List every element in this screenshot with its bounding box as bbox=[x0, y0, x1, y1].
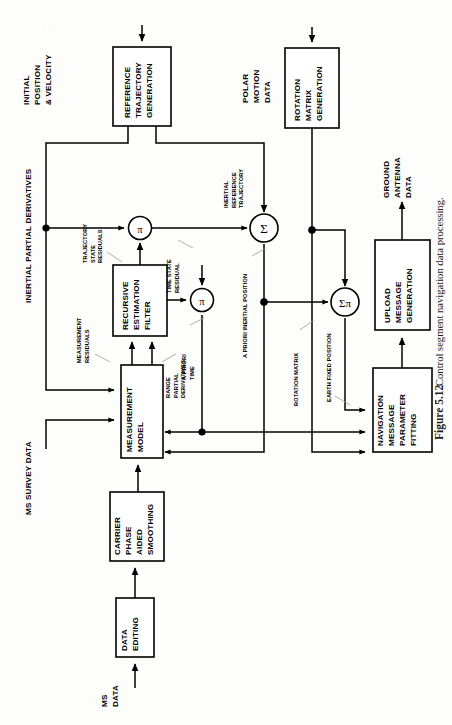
label-ref-line3: FILTER bbox=[143, 301, 152, 330]
label-ground-antenna-data: GROUND ANTENNA DATA bbox=[382, 157, 413, 198]
label-msdata-line1: MS bbox=[100, 694, 109, 707]
label-ipv-line1: INITIAL bbox=[22, 75, 31, 105]
operator-sigma-inertial-glyph: Σ bbox=[260, 221, 268, 236]
leader-trajectory-state-residuals bbox=[107, 252, 122, 262]
label-polar-motion-data: POLAR MOTION DATA bbox=[241, 69, 272, 103]
figure-number: Figure 5.12 bbox=[433, 384, 446, 440]
label-inertial-partial-derivatives: INERTIAL PARTIAL DERIVATIVES bbox=[24, 168, 33, 303]
scan-artifact-left: · · · bbox=[42, 23, 56, 29]
label-rmg-line2: MATRIX bbox=[304, 89, 313, 121]
label-tstr-line1: TIME STATE bbox=[166, 259, 172, 293]
label-irt-line2: REFERENCE bbox=[231, 172, 237, 208]
label-msd-text: MS SURVEY DATA bbox=[24, 441, 33, 515]
label-nmpf-line3: PARAMETER bbox=[398, 394, 407, 446]
label-pmd-line3: DATA bbox=[263, 81, 272, 103]
label-ipv-line2: POSITION bbox=[33, 65, 42, 105]
label-apip-text: A PRIORI INERTIAL POSITION bbox=[242, 274, 248, 358]
label-apt-line2: TIME bbox=[189, 366, 195, 380]
label-msdata-line2: DATA bbox=[111, 685, 120, 707]
label-rtg-line2: TRAJECTORY bbox=[134, 62, 143, 118]
label-tstr-line2: RESIDUAL bbox=[174, 263, 180, 293]
leader-range-partial-derivatives bbox=[162, 354, 176, 362]
operator-sigma-pi-glyph: Σπ bbox=[339, 297, 351, 309]
label-initial-position-velocity: INITIAL POSITION & VELOCITY bbox=[22, 54, 53, 105]
figure-caption-text: Control segment navigation data processi… bbox=[434, 197, 445, 386]
operator-pi-trajectory-glyph: π bbox=[137, 224, 143, 235]
label-cpas-line2: PHASE bbox=[124, 526, 133, 555]
wire-reference-trajectory-to-sigma bbox=[156, 126, 264, 212]
label-tsr-line1: TRAJECTORY bbox=[82, 224, 88, 263]
label-ms-survey-data: MS SURVEY DATA bbox=[24, 441, 33, 515]
label-ipd-text: INERTIAL PARTIAL DERIVATIVES bbox=[24, 168, 33, 303]
label-mm-line1: MEASUREMENT bbox=[125, 387, 134, 452]
label-gad-line3: DATA bbox=[404, 176, 413, 198]
label-pmd-line1: POLAR bbox=[241, 74, 250, 103]
label-rpd-line1: RANGE bbox=[165, 377, 171, 398]
label-ref-line1: RECURSIVE bbox=[121, 281, 130, 330]
label-gad-line1: GROUND bbox=[382, 161, 391, 198]
wire-rotation-matrix-to-sigma-pi bbox=[312, 230, 345, 286]
label-nmpf-line2: MESSAGE bbox=[387, 404, 396, 446]
label-de-line1: DATA bbox=[120, 629, 129, 651]
wire-rotation-matrix-to-nav-message-fitting bbox=[312, 230, 365, 452]
label-mm-line2: MODEL bbox=[136, 422, 145, 452]
label-a-priori-inertial-position: A PRIORI INERTIAL POSITION bbox=[242, 274, 248, 358]
leader-measurement-residuals bbox=[95, 354, 110, 362]
label-rmg-line3: GENERATION bbox=[315, 66, 324, 121]
label-tsr-line2: STATE bbox=[90, 245, 96, 263]
label-umg-line2: MESSAGE bbox=[394, 281, 403, 323]
label-cpas-line3: AIDED bbox=[135, 529, 144, 555]
label-rtg-line3: GENERATION bbox=[145, 63, 154, 118]
label-inertial-reference-trajectory: INERTIAL REFERENCE TRAJECTORY bbox=[223, 169, 244, 208]
operator-pi-time-glyph: π bbox=[199, 296, 205, 307]
label-gad-line2: ANTENNA bbox=[393, 157, 402, 198]
label-rmg-line1: ROTATION bbox=[293, 79, 302, 121]
label-de-line2: EDITING bbox=[131, 617, 140, 651]
leader-earth-fixed-position bbox=[335, 396, 350, 405]
wire-partials-bus-to-measurement-model bbox=[46, 228, 114, 390]
label-cpas-line1: CARRIER bbox=[113, 517, 122, 555]
label-time-state-residual: TIME STATE RESIDUAL bbox=[166, 259, 180, 293]
wire-ms-survey-data-to-measurement-model bbox=[46, 420, 114, 449]
scan-artifact-right: · · · bbox=[228, 23, 242, 29]
figure-container: · · · · · · bbox=[0, 0, 452, 725]
label-earth-fixed-position: EARTH FIXED POSITION bbox=[326, 333, 332, 402]
figure-caption: Figure 5.12 Control segment navigation d… bbox=[433, 197, 446, 440]
label-nmpf-line4: FITTING bbox=[409, 413, 418, 446]
label-rtg-line1: REFERENCE bbox=[123, 66, 132, 118]
label-irt-line1: INERTIAL bbox=[223, 181, 229, 208]
label-irt-line3: TRAJECTORY bbox=[238, 169, 244, 208]
label-ipv-line3: & VELOCITY bbox=[44, 54, 53, 105]
label-cpas-line4: SMOOTHING bbox=[146, 504, 155, 555]
wire-reference-trajectory-partials-bus bbox=[46, 126, 128, 228]
label-a-priori-time: A PRIORI TIME bbox=[181, 354, 195, 380]
label-ms-data: MS DATA bbox=[100, 685, 120, 707]
label-mr-line2: RESIDUALS bbox=[84, 329, 90, 363]
label-tsr-line3: RESIDUALS bbox=[97, 229, 103, 263]
label-measurement-residuals: MEASUREMENT RESIDUALS bbox=[76, 317, 90, 363]
label-nmpf-line1: NAVIGATION bbox=[376, 395, 385, 446]
label-rpd-line2: PARTIAL bbox=[173, 373, 179, 398]
label-rotation-matrix: ROTATION MATRIX bbox=[293, 353, 299, 406]
leader-time-state-residual bbox=[178, 240, 193, 248]
label-umg-line3: GENERATION bbox=[405, 268, 414, 323]
label-efp-text: EARTH FIXED POSITION bbox=[326, 333, 332, 402]
label-rm-text: ROTATION MATRIX bbox=[293, 353, 299, 406]
label-pmd-line2: MOTION bbox=[252, 69, 261, 103]
label-apt-line1: A PRIORI bbox=[181, 354, 187, 380]
label-trajectory-state-residuals: TRAJECTORY STATE RESIDUALS bbox=[82, 224, 103, 263]
wire-earth-fixed-position-to-nav-message-fitting bbox=[345, 318, 365, 410]
label-umg-line1: UPLOAD bbox=[383, 288, 392, 323]
label-mr-line1: MEASUREMENT bbox=[76, 317, 82, 363]
label-reference-trajectory-generation: REFERENCE TRAJECTORY GENERATION bbox=[123, 62, 154, 118]
control-segment-navigation-flow-diagram: · · · · · · bbox=[0, 0, 452, 725]
label-ref-line2: ESTIMATION bbox=[132, 279, 141, 330]
